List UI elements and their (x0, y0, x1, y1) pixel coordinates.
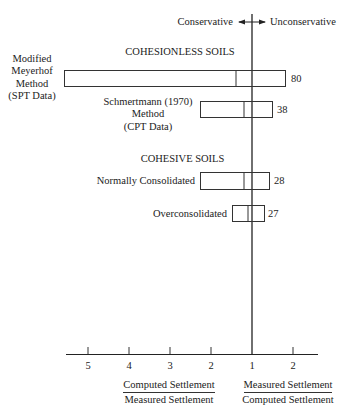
count-schmertmann: 38 (277, 104, 288, 116)
box-schmertmann (201, 102, 273, 118)
series-label-normally-consolidated: Normally Consolidated (60, 175, 195, 187)
x-tick-label: 2 (203, 360, 219, 372)
count-overconsolidated: 27 (268, 208, 279, 220)
x-tick-label: 2 (285, 360, 301, 372)
series-label-schmertmann: Schmertmann (1970) Method (CPT Data) (100, 96, 196, 133)
x-tick-label: 1 (244, 360, 260, 372)
conservative-label: Conservative (160, 16, 233, 28)
x-axis-label-right: Measured Settlement Computed Settlement (238, 378, 338, 406)
box-normally-consolidated (201, 173, 270, 190)
count-normally-consolidated: 28 (274, 175, 285, 187)
count-meyerhof: 80 (291, 73, 302, 85)
x-axis-label-left: Computed Settlement Measured Settlement (118, 378, 220, 406)
x-axis (66, 347, 318, 355)
x-tick-label: 5 (80, 360, 96, 372)
x-tick-label: 3 (162, 360, 178, 372)
box-overconsolidated (233, 206, 265, 222)
arrow-right-icon (259, 20, 266, 25)
group-label-cohesive: COHESIVE SOILS (120, 153, 245, 165)
x-tick-label: 4 (121, 360, 137, 372)
unconservative-label: Unconservative (270, 16, 336, 28)
group-label-cohesionless: COHESIONLESS SOILS (110, 46, 250, 58)
series-label-meyerhof: Modified Meyerhof Method (SPT Data) (0, 53, 64, 102)
series-label-overconsolidated: Overconsolidated (100, 208, 227, 220)
arrow-left-icon (238, 20, 245, 25)
